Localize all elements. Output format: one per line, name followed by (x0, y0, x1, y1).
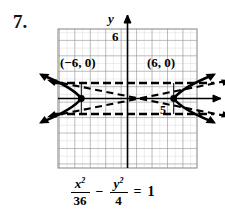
y-axis-label: y (108, 12, 114, 25)
minus-operator: − (94, 184, 106, 200)
vertex-right-label: (6, 0) (147, 56, 175, 69)
numerator-x-squared: x2 (72, 177, 89, 192)
equation: x2 36 − y2 4 = 1 (0, 176, 225, 208)
fraction-y-squared-over-4: y2 4 (110, 177, 128, 208)
problem-number: 7. (13, 12, 27, 31)
equation-row: x2 36 − y2 4 = 1 (71, 177, 155, 208)
graph-svg (28, 9, 225, 194)
vertex-left-point (78, 95, 85, 102)
x-tick-label-5: 5 (160, 104, 166, 116)
vertex-left-label: (−6, 0) (60, 56, 96, 69)
hyperbola-figure: 7. (0, 0, 225, 220)
x-axis-label: x (196, 105, 203, 118)
denominator-4: 4 (112, 193, 125, 208)
right-hand-side: 1 (147, 184, 154, 200)
vertex-right-point (170, 95, 177, 102)
numerator-y-squared: y2 (111, 177, 127, 192)
fraction-x-squared-over-36: x2 36 (71, 177, 90, 208)
y-tick-label-6: 6 (112, 30, 119, 43)
equals-sign: = (132, 184, 144, 200)
denominator-36: 36 (71, 193, 90, 208)
plot-area (58, 29, 197, 168)
